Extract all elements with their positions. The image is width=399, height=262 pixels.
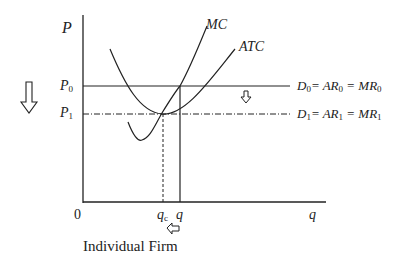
demand-shift-down-arrow bbox=[241, 91, 251, 103]
mc-label: MC bbox=[206, 18, 227, 32]
d0-label: D0= AR0 = MR0 bbox=[297, 79, 382, 94]
mc-curve bbox=[128, 26, 207, 140]
atc-curve bbox=[110, 49, 235, 114]
atc-label: ATC bbox=[239, 40, 264, 54]
firm-diagram-canvas bbox=[0, 0, 399, 262]
price-down-arrow-left bbox=[21, 82, 37, 113]
p0-label: P0 bbox=[60, 79, 73, 94]
diagram-title: Individual Firm bbox=[83, 239, 178, 254]
origin-label: 0 bbox=[74, 208, 81, 222]
y-axis-label: P bbox=[62, 20, 72, 36]
quantity-left-arrow bbox=[167, 223, 179, 234]
qc-label: qc bbox=[157, 208, 168, 223]
q-label: q bbox=[176, 208, 183, 222]
x-axis-label: q bbox=[309, 208, 316, 222]
d1-label: D1= AR1 = MR1 bbox=[297, 107, 382, 122]
p1-label: P1 bbox=[60, 106, 73, 121]
